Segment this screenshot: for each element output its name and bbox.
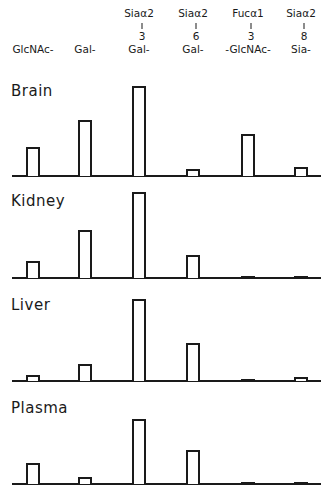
category-substituent: Siaα2 bbox=[286, 8, 316, 19]
bar bbox=[78, 364, 92, 381]
bar bbox=[78, 477, 92, 484]
bar bbox=[78, 120, 92, 176]
bar bbox=[132, 299, 146, 381]
bar bbox=[26, 261, 40, 278]
category-label: -GlcNAc- bbox=[225, 44, 270, 55]
panel-baseline bbox=[12, 175, 321, 177]
bar bbox=[132, 419, 146, 484]
bar bbox=[294, 377, 308, 381]
category-substituent: Siaα2 bbox=[124, 8, 154, 19]
category-linkage: 3 bbox=[139, 31, 146, 42]
bar bbox=[186, 343, 200, 381]
category-label: Gal- bbox=[128, 44, 149, 55]
bar bbox=[26, 147, 40, 176]
bar bbox=[294, 482, 308, 484]
bar bbox=[241, 276, 255, 278]
bar bbox=[26, 463, 40, 484]
category-label: Gal- bbox=[182, 44, 203, 55]
category-substituent: Siaα2 bbox=[178, 8, 208, 19]
linkage-tick bbox=[142, 23, 143, 29]
linkage-tick bbox=[251, 23, 252, 29]
linkage-tick bbox=[304, 23, 305, 29]
bar bbox=[186, 169, 200, 176]
linkage-tick bbox=[196, 23, 197, 29]
bar bbox=[294, 276, 308, 278]
panel-baseline bbox=[12, 380, 321, 382]
panel-label-kidney: Kidney bbox=[11, 194, 65, 209]
panel-label-plasma: Plasma bbox=[11, 401, 68, 416]
bar bbox=[241, 379, 255, 381]
bar bbox=[186, 450, 200, 484]
panel-baseline bbox=[12, 277, 321, 279]
category-substituent: Fucα1 bbox=[232, 8, 264, 19]
category-label: GlcNAc- bbox=[12, 44, 53, 55]
category-linkage: 8 bbox=[301, 31, 308, 42]
bar bbox=[186, 255, 200, 278]
bar bbox=[26, 375, 40, 381]
bar bbox=[78, 230, 92, 278]
bar bbox=[241, 482, 255, 484]
panel-label-brain: Brain bbox=[11, 84, 53, 99]
bar bbox=[241, 134, 255, 176]
panel-baseline bbox=[12, 483, 321, 485]
category-linkage: 6 bbox=[193, 31, 200, 42]
category-label: Gal- bbox=[74, 44, 95, 55]
category-label: Sia- bbox=[291, 44, 311, 55]
bar bbox=[132, 86, 146, 176]
bar bbox=[132, 192, 146, 278]
category-linkage: 3 bbox=[248, 31, 255, 42]
panel-label-liver: Liver bbox=[11, 298, 50, 313]
bar bbox=[294, 167, 308, 176]
